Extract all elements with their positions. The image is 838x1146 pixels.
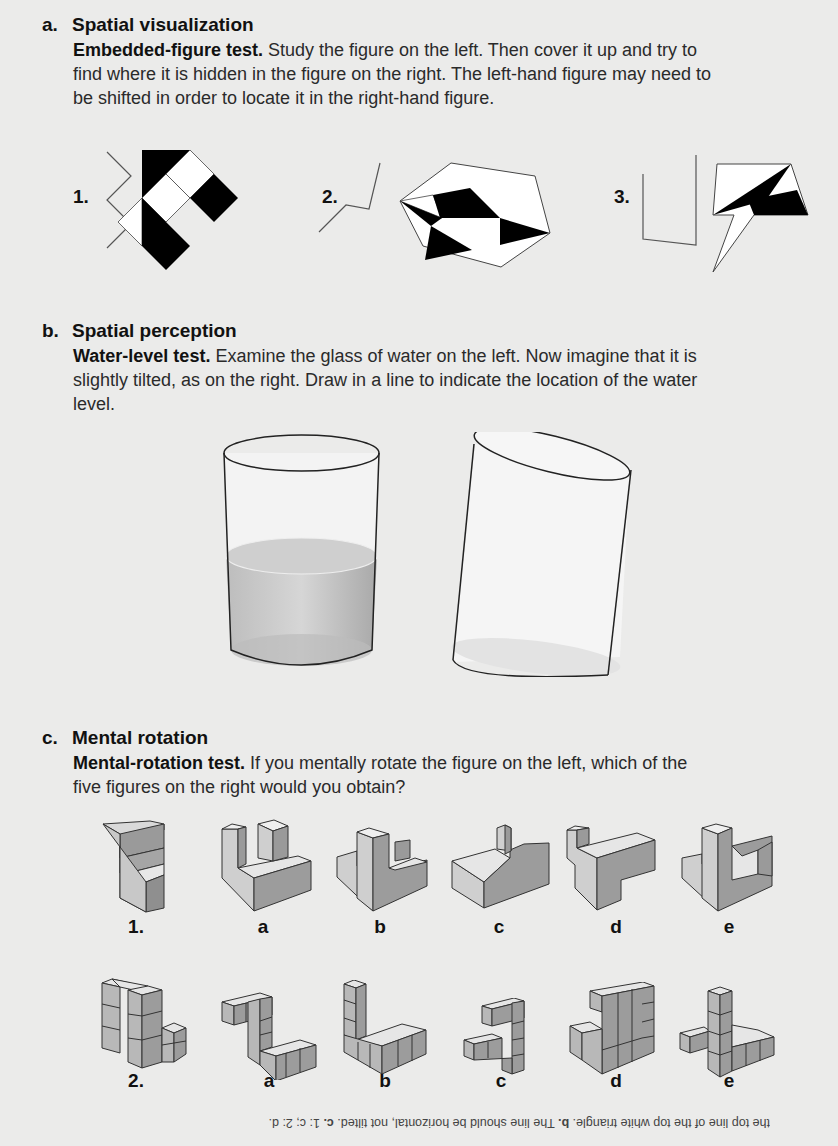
answer-c: 1: c; 2: d. [269, 1116, 324, 1130]
option-label-b: b [370, 1070, 400, 1092]
option-label-d: d [601, 1070, 631, 1092]
rotation-figure-2-option-c [462, 998, 562, 1078]
option-label-e: e [714, 1070, 744, 1092]
embedded-figure-1 [100, 145, 270, 270]
section-title: Mental rotation [72, 727, 208, 748]
item-number: 1. [73, 186, 89, 208]
tilted-empty-glass [445, 432, 640, 677]
rotation-figure-2-option-b [342, 980, 442, 1075]
section-c-heading: c.Mental rotation [42, 727, 208, 749]
upright-glass-with-water [215, 432, 390, 672]
test-name: Water-level test. [73, 346, 210, 366]
section-letter: c. [42, 727, 72, 749]
option-label-b: b [365, 916, 395, 938]
rotation-figure-2-reference [100, 978, 195, 1073]
option-label-c: c [484, 916, 514, 938]
figure-label: 1. [121, 916, 151, 938]
option-label-e: e [714, 916, 744, 938]
rotation-figure-2-option-a [220, 985, 320, 1080]
rotation-figure-1-option-e [680, 818, 780, 913]
rotation-figure-2-option-e [678, 985, 778, 1080]
section-letter: b. [42, 320, 72, 342]
answer-b-label: b. [558, 1116, 569, 1130]
option-label-c: c [486, 1070, 516, 1092]
option-label-d: d [601, 916, 631, 938]
rotation-figure-1-option-a [218, 818, 318, 913]
test-name: Embedded-figure test. [73, 40, 263, 60]
embedded-figure-3 [638, 150, 818, 280]
section-a-heading: a.Spatial visualization [42, 14, 254, 36]
section-title: Spatial visualization [72, 14, 254, 35]
rotation-figure-2-option-d [568, 982, 668, 1077]
section-a-instructions: Embedded-figure test. Study the figure o… [73, 38, 713, 110]
option-label-a: a [254, 1070, 284, 1092]
section-c-instructions: Mental-rotation test. If you mentally ro… [73, 751, 713, 799]
answer-a: the top line of the top white triangle. [569, 1116, 770, 1130]
section-letter: a. [42, 14, 72, 36]
rotation-figure-1-option-c [450, 818, 550, 913]
rotation-figure-1-option-d [565, 818, 665, 913]
item-number: 3. [614, 186, 630, 208]
answer-b: The line should be horizontal, not tilte… [334, 1116, 558, 1130]
figure-label: 2. [121, 1070, 151, 1092]
rotation-figure-1-option-b [335, 818, 435, 913]
rotation-figure-1-reference [100, 820, 180, 915]
answer-c-label: c. [323, 1116, 333, 1130]
answer-key-upside-down: the top line of the top white triangle. … [70, 1116, 770, 1130]
section-title: Spatial perception [72, 320, 237, 341]
option-label-a: a [248, 916, 278, 938]
test-name: Mental-rotation test. [73, 753, 245, 773]
section-b-heading: b.Spatial perception [42, 320, 237, 342]
section-b-instructions: Water-level test. Examine the glass of w… [73, 344, 713, 416]
embedded-figure-2 [315, 160, 555, 270]
